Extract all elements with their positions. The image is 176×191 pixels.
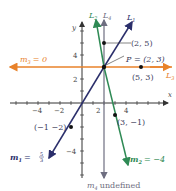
x-tick-neg4: −4 bbox=[32, 107, 43, 115]
y-axis-label: y bbox=[71, 24, 77, 32]
l2-label: L2 bbox=[88, 11, 98, 21]
label-3-neg1: (3, −1) bbox=[117, 118, 145, 127]
y-tick-neg4: −4 bbox=[66, 148, 77, 156]
point-3-neg1 bbox=[113, 113, 117, 117]
x-axis bbox=[10, 101, 168, 105]
label-2-5: (2, 5) bbox=[131, 39, 153, 48]
slope-diagram: x −4 −2 2 4 y 4 2 −4 L3 m3= 0 L4 m4undef… bbox=[0, 0, 176, 191]
line-l2 bbox=[96, 20, 128, 165]
x-tick-4: 4 bbox=[124, 107, 129, 115]
point-p bbox=[102, 65, 106, 69]
x-tick-neg2: −2 bbox=[54, 107, 64, 115]
label-p: P = (2, 3) bbox=[125, 55, 165, 64]
x-axis-label: x bbox=[168, 91, 172, 99]
m2-label: m2= −4 bbox=[130, 154, 165, 165]
l4-label: L4 bbox=[102, 11, 112, 21]
point-2-5 bbox=[102, 41, 106, 45]
x-tick-2: 2 bbox=[96, 107, 100, 115]
m1-den: 3 bbox=[40, 157, 43, 163]
line-l1 bbox=[49, 22, 132, 158]
l1-label: L1 bbox=[126, 13, 136, 23]
y-tick-2: 2 bbox=[73, 76, 77, 84]
l3-label: L3 bbox=[165, 71, 175, 81]
label-neg1-neg2: (−1 −2) bbox=[34, 123, 66, 132]
m1-label: m1= bbox=[10, 152, 31, 163]
y-tick-4: 4 bbox=[73, 52, 78, 60]
label-5-3: (5, 3) bbox=[132, 73, 154, 82]
point-5-3 bbox=[139, 65, 143, 69]
point-neg1-neg2 bbox=[69, 125, 73, 129]
m4-label: m4undefined bbox=[87, 181, 140, 191]
m3-label: m3= 0 bbox=[20, 55, 47, 65]
